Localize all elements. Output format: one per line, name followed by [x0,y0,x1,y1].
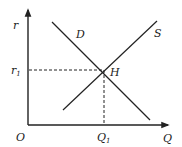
supply-demand-diagram: r Q O D S H r1 Q1 [0,0,182,147]
demand-curve [52,22,150,120]
origin-label: O [16,131,25,144]
q1-main: Q [97,131,106,144]
q1-subscript: 1 [106,137,110,145]
r1-subscript: 1 [16,70,20,78]
y-axis-label: r [13,19,19,32]
x-axis-label: Q [163,132,172,145]
q1-label: Q1 [97,131,111,145]
r1-label: r1 [11,64,21,78]
supply-label: S [154,27,162,40]
demand-label: D [75,28,85,41]
equilibrium-label: H [109,66,120,79]
